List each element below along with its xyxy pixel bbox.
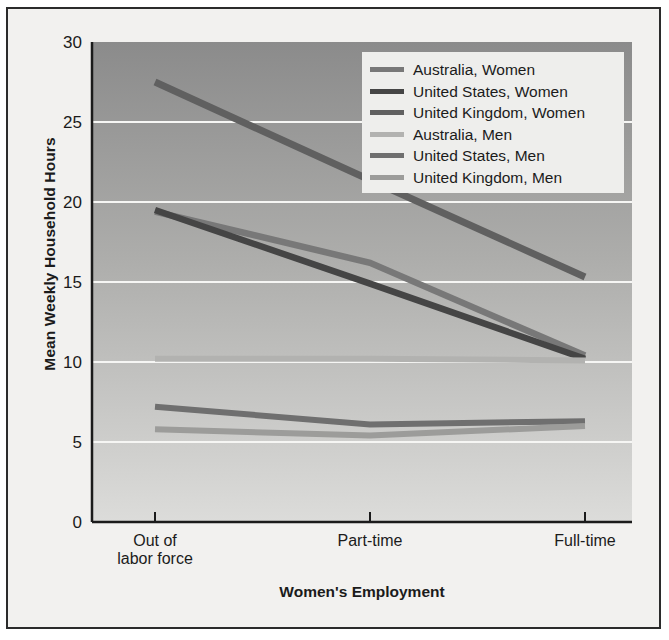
legend-item-australia-men: Australia, Men [370,124,616,146]
chart-legend: Australia, Women United States, Women Un… [362,52,624,193]
legend-item-united-states-women: United States, Women [370,81,616,103]
legend-label-australia-men: Australia, Men [413,127,512,143]
legend-item-united-kingdom-men: United Kingdom, Men [370,167,616,189]
legend-label-australia-women: Australia, Women [413,62,535,78]
legend-label-united-kingdom-women: United Kingdom, Women [413,105,585,121]
legend-label-united-states-men: United States, Men [413,148,545,164]
legend-item-united-kingdom-women: United Kingdom, Women [370,102,616,124]
x-tick-label-out-of-labor-force: Out of labor force [60,532,250,569]
y-tick-label-30: 30 [36,34,82,51]
y-tick-label-0: 0 [36,514,82,531]
x-axis-title: Women's Employment [92,583,632,601]
legend-swatch-australia-men [370,132,404,137]
legend-swatch-united-kingdom-men [370,175,404,180]
series-line-australia-men [155,359,585,361]
legend-swatch-australia-women [370,67,404,72]
x-tick-label-part-time: Part-time [275,532,465,550]
legend-item-united-states-men: United States, Men [370,145,616,167]
legend-item-australia-women: Australia, Women [370,59,616,81]
x-tick-label-full-time: Full-time [490,532,669,550]
legend-swatch-united-kingdom-women [370,110,404,115]
legend-label-united-kingdom-men: United Kingdom, Men [413,170,562,186]
legend-swatch-united-states-women [370,89,404,94]
legend-label-united-states-women: United States, Women [413,84,568,100]
legend-swatch-united-states-men [370,153,404,158]
y-axis-title: Mean Weekly Household Hours [41,54,59,454]
